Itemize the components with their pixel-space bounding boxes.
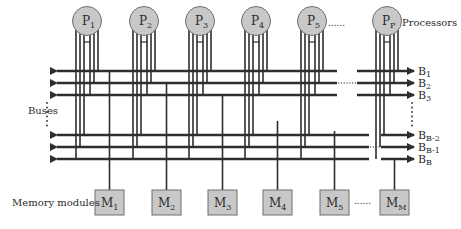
memory-module-M3: M3: [208, 190, 237, 215]
diagram-canvas: B1B2B3BB-2BB-1BB P1P2P3P4P5PP M1M2M3M4M5…: [0, 0, 461, 229]
bus-B1: B1: [57, 65, 431, 79]
processor-P1: P1: [73, 7, 102, 36]
memory-bus-connections: [110, 71, 395, 190]
bus-ellipsis-right: [411, 125, 413, 127]
multibus-diagram: B1B2B3BB-2BB-1BB P1P2P3P4P5PP M1M2M3M4M5…: [0, 0, 461, 229]
buses-label: Buses: [28, 105, 58, 116]
processors-group: P1P2P3P4P5PP: [73, 7, 402, 36]
processor-P5: P5: [298, 7, 327, 36]
memory-ellipsis: ......: [354, 196, 371, 206]
processors-label: Processors: [402, 17, 457, 28]
bus-ellipsis-right: [411, 107, 413, 109]
memory-module-M5: M5: [320, 190, 349, 215]
bus-ellipsis-right: [411, 116, 413, 118]
bus-ellipsis-left: [46, 102, 48, 104]
bus-B2: B2: [57, 77, 431, 91]
bus-B3: B3: [57, 89, 431, 103]
bus-ellipsis-right: [411, 120, 413, 122]
processor-P4: P4: [242, 7, 271, 36]
memory-module-M4: M4: [263, 190, 292, 215]
bus-lines: B1B2B3BB-2BB-1BB: [46, 65, 440, 167]
bus-label-B3: B3: [418, 89, 431, 103]
bus-ellipsis-right: [411, 111, 413, 113]
bus-ellipsis-right: [411, 102, 413, 104]
memory-modules-label: Memory modules: [12, 197, 100, 208]
processor-ellipsis: ......: [328, 18, 345, 28]
memory-module-MM: MM: [380, 190, 409, 215]
processor-Pp: PP: [373, 7, 402, 36]
bus-ellipsis-left: [46, 125, 48, 127]
memory-module-M2: M2: [152, 190, 181, 215]
processor-P2: P2: [130, 7, 159, 36]
bus-ellipsis-left: [46, 120, 48, 122]
processor-P3: P3: [186, 7, 215, 36]
bus-label-BB: BB: [418, 153, 432, 167]
